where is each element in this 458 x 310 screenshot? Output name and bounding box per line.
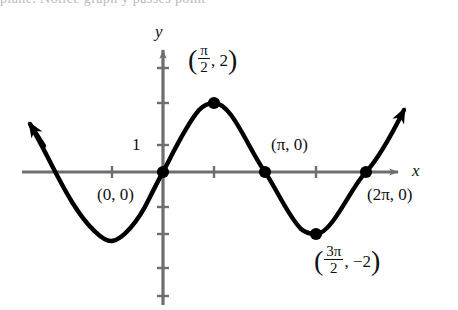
point-minimum xyxy=(310,228,322,240)
label-maximum: (π2, 2) xyxy=(188,44,237,76)
label-pi-zero: (π, 0) xyxy=(271,136,308,153)
sine-graph-figure: y x 1 (0, 0) (π2, 2) (π, 0) (2π, 0) (3π2… xyxy=(0,0,458,310)
x-axis-label: x xyxy=(412,162,420,179)
label-minimum-open-paren: ( xyxy=(314,250,323,272)
label-maximum-open-paren: ( xyxy=(188,49,197,71)
label-maximum-numerator: π xyxy=(198,43,210,59)
y-tick-label-1: 1 xyxy=(132,136,141,153)
label-maximum-fraction: π2 xyxy=(198,43,210,75)
label-minimum-y: , −2 xyxy=(344,253,371,270)
label-maximum-close-paren: ) xyxy=(228,49,237,71)
label-minimum: (3π2, −2) xyxy=(314,245,380,277)
label-minimum-numerator: 3π xyxy=(324,244,343,260)
label-minimum-fraction: 3π2 xyxy=(324,244,343,276)
label-minimum-denominator: 2 xyxy=(324,260,343,276)
point-pi-zero xyxy=(259,166,271,178)
sine-curve-left-arrow xyxy=(30,124,44,146)
label-origin: (0, 0) xyxy=(97,186,134,203)
label-minimum-close-paren: ) xyxy=(371,250,380,272)
label-maximum-denominator: 2 xyxy=(198,59,210,75)
point-maximum xyxy=(208,97,220,109)
label-maximum-y: , 2 xyxy=(211,52,228,69)
label-two-pi-zero: (2π, 0) xyxy=(367,186,412,203)
point-origin xyxy=(157,166,169,178)
marked-points-group xyxy=(157,97,372,240)
y-axis-label: y xyxy=(155,23,163,40)
point-two-pi-zero xyxy=(360,166,372,178)
